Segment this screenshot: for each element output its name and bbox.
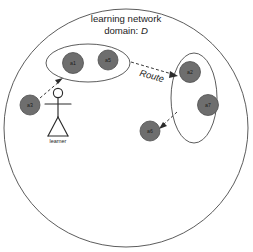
diagram-canvas: learning network domain: D Route learner bbox=[0, 0, 253, 252]
node-a3-label: a3 bbox=[27, 102, 33, 108]
node-a2-label: a2 bbox=[187, 69, 193, 75]
learner-head-icon bbox=[53, 88, 62, 97]
node-a6-label: a6 bbox=[147, 128, 153, 134]
diagram-title-line2: domain: D bbox=[104, 25, 148, 36]
learner-label: learner bbox=[50, 138, 67, 144]
diagram-title-line1: learning network bbox=[91, 13, 162, 24]
learning-network-diagram: learning network domain: D Route learner bbox=[0, 0, 253, 252]
node-a2[interactable]: a2 bbox=[180, 62, 201, 83]
node-a7[interactable]: a7 bbox=[198, 95, 219, 116]
domain-title-prefix: domain: bbox=[104, 25, 141, 36]
node-a3[interactable]: a3 bbox=[20, 95, 40, 115]
node-a1[interactable]: a1 bbox=[63, 53, 84, 74]
node-a5-label: a5 bbox=[105, 57, 111, 63]
node-a7-label: a7 bbox=[205, 102, 211, 108]
domain-title-symbol: D bbox=[141, 25, 148, 36]
node-a1-label: a1 bbox=[70, 60, 76, 66]
node-a6[interactable]: a6 bbox=[140, 121, 160, 141]
node-a5[interactable]: a5 bbox=[98, 50, 118, 70]
